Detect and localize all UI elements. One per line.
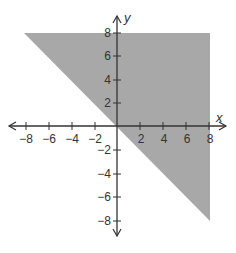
svg-text:4: 4 xyxy=(104,73,111,87)
svg-text:−8: −8 xyxy=(97,214,111,228)
inequality-graph: −8 −6 −4 −2 2 4 6 8 8 6 4 2 −2 −4 −6 −8 … xyxy=(0,0,236,253)
svg-text:2: 2 xyxy=(138,132,145,146)
svg-text:−8: −8 xyxy=(19,132,33,146)
svg-text:8: 8 xyxy=(207,132,214,146)
svg-text:−6: −6 xyxy=(97,190,111,204)
x-axis-label: x xyxy=(215,110,223,125)
y-axis-label: y xyxy=(123,10,132,25)
svg-text:2: 2 xyxy=(104,96,111,110)
svg-text:6: 6 xyxy=(104,49,111,63)
svg-text:8: 8 xyxy=(104,26,111,40)
svg-text:−2: −2 xyxy=(97,143,111,157)
svg-text:−4: −4 xyxy=(65,132,79,146)
svg-text:6: 6 xyxy=(184,132,191,146)
svg-text:−6: −6 xyxy=(42,132,56,146)
svg-text:−4: −4 xyxy=(97,167,111,181)
svg-text:4: 4 xyxy=(161,132,168,146)
